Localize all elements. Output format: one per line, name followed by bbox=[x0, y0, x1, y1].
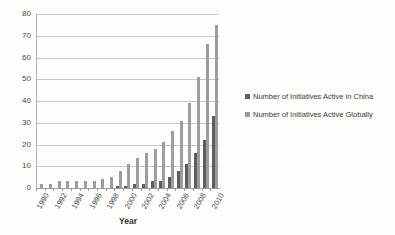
bar-group bbox=[62, 14, 71, 188]
x-axis-tick-mark bbox=[141, 188, 142, 191]
x-axis-tick-mark bbox=[114, 188, 115, 191]
x-axis-tick-label: 2002 bbox=[141, 192, 156, 210]
bar-group bbox=[123, 14, 132, 188]
bar-group bbox=[53, 14, 62, 188]
x-axis-tick-mark bbox=[132, 188, 133, 191]
bars-layer bbox=[36, 14, 219, 188]
x-axis-tick-mark bbox=[193, 188, 194, 191]
legend-item-china: Number of Initiatives Active in China bbox=[245, 92, 393, 101]
bar-global bbox=[180, 121, 183, 188]
x-axis-tick-mark bbox=[175, 188, 176, 191]
bar-group bbox=[158, 14, 167, 188]
x-axis-tick-label: 1990 bbox=[36, 192, 51, 210]
x-axis-tick-mark bbox=[97, 188, 98, 191]
bar-group bbox=[193, 14, 202, 188]
legend-swatch-icon-global bbox=[245, 112, 250, 117]
bar-global bbox=[206, 44, 209, 188]
bar-global bbox=[215, 25, 218, 188]
x-axis-tick-label: 2004 bbox=[158, 192, 173, 210]
x-axis-tick-mark bbox=[123, 188, 124, 191]
y-axis-tick-label: 60 bbox=[22, 54, 31, 62]
x-axis-tick-mark bbox=[45, 188, 46, 191]
bar-global bbox=[162, 142, 165, 188]
x-axis-tick-label: 2006 bbox=[175, 192, 190, 210]
plot-area: 80706050403020100 bbox=[36, 14, 219, 188]
x-axis-tick-mark bbox=[36, 188, 37, 191]
x-axis-tick-mark bbox=[71, 188, 72, 191]
bar-group bbox=[202, 14, 211, 188]
y-axis-line bbox=[36, 14, 37, 189]
bar-global bbox=[101, 179, 104, 188]
x-axis-tick-label: 2010 bbox=[210, 192, 225, 210]
x-axis-tick-mark bbox=[80, 188, 81, 191]
y-axis-tick-label: 70 bbox=[22, 32, 31, 40]
bar-global bbox=[188, 103, 191, 188]
bar-group bbox=[149, 14, 158, 188]
y-axis-tick-label: 30 bbox=[22, 119, 31, 127]
bar-group bbox=[132, 14, 141, 188]
x-axis-tick-label: 2008 bbox=[193, 192, 208, 210]
legend-item-global: Number of Initiatives Active Globally bbox=[245, 110, 393, 119]
y-axis-tick-label: 20 bbox=[22, 141, 31, 149]
x-axis-tick-mark bbox=[88, 188, 89, 191]
bar-group bbox=[71, 14, 80, 188]
bar-chart: 80706050403020100 1990199219941996199820… bbox=[0, 0, 395, 235]
bar-group bbox=[88, 14, 97, 188]
bar-global bbox=[154, 149, 157, 188]
bar-group bbox=[97, 14, 106, 188]
x-axis-tick-mark bbox=[53, 188, 54, 191]
x-axis-tick-mark bbox=[202, 188, 203, 191]
x-axis-tick-label: 1996 bbox=[88, 192, 103, 210]
bar-global bbox=[171, 131, 174, 188]
bar-group bbox=[167, 14, 176, 188]
bar-global bbox=[110, 177, 113, 188]
y-axis-tick-label: 80 bbox=[22, 10, 31, 18]
bar-group bbox=[36, 14, 45, 188]
x-axis-tick-mark bbox=[149, 188, 150, 191]
bar-global bbox=[136, 158, 139, 188]
bar-group bbox=[106, 14, 115, 188]
y-axis-tick-label: 40 bbox=[22, 97, 31, 105]
x-axis-tick-mark bbox=[158, 188, 159, 191]
x-axis-tick-label: 2000 bbox=[123, 192, 138, 210]
bar-global bbox=[119, 171, 122, 188]
x-axis-tick-label: 1998 bbox=[106, 192, 121, 210]
x-axis-tick-mark bbox=[62, 188, 63, 191]
x-axis-tick-mark bbox=[184, 188, 185, 191]
bar-group bbox=[141, 14, 150, 188]
x-axis-tick-label: 1992 bbox=[53, 192, 68, 210]
x-axis-tick-mark bbox=[106, 188, 107, 191]
bar-group bbox=[184, 14, 193, 188]
x-axis-title: Year bbox=[36, 216, 220, 226]
bar-group bbox=[210, 14, 219, 188]
legend-swatch-icon-china bbox=[245, 94, 250, 99]
y-axis-tick-label: 50 bbox=[22, 75, 31, 83]
bar-global bbox=[145, 153, 148, 188]
legend-label-global: Number of Initiatives Active Globally bbox=[253, 110, 373, 119]
legend-label-china: Number of Initiatives Active in China bbox=[253, 92, 373, 101]
bar-global bbox=[127, 164, 130, 188]
x-axis-tick-mark bbox=[167, 188, 168, 191]
bar-group bbox=[175, 14, 184, 188]
bar-global bbox=[197, 77, 200, 188]
bar-group bbox=[114, 14, 123, 188]
bar-group bbox=[45, 14, 54, 188]
chart-legend: Number of Initiatives Active in China Nu… bbox=[245, 92, 393, 129]
x-axis-tick-label: 1994 bbox=[71, 192, 86, 210]
x-axis-tick-mark bbox=[210, 188, 211, 191]
y-axis-tick-label: 10 bbox=[22, 162, 31, 170]
bar-group bbox=[80, 14, 89, 188]
y-axis-tick-label: 0 bbox=[27, 184, 31, 192]
